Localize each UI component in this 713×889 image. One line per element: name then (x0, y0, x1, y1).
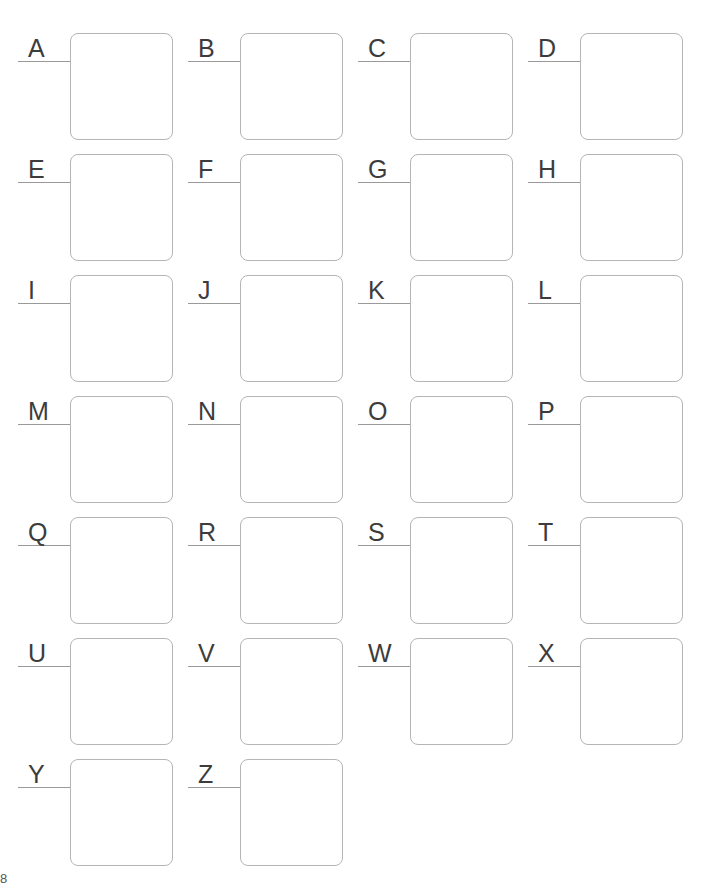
entry-box-v[interactable] (240, 638, 343, 745)
entry-cell-k: K (340, 274, 510, 395)
entry-cell-v: V (170, 637, 340, 758)
entry-cell-a: A (0, 32, 170, 153)
entry-box-c[interactable] (410, 33, 513, 140)
entry-box-e[interactable] (70, 154, 173, 261)
letter-label-u: U (28, 638, 68, 668)
entry-cell-g: G (340, 153, 510, 274)
letter-label-d: D (538, 33, 578, 63)
entry-box-t[interactable] (580, 517, 683, 624)
letter-label-q: Q (28, 517, 68, 547)
letter-label-z: Z (198, 759, 238, 789)
letter-label-p: P (538, 396, 578, 426)
entry-box-x[interactable] (580, 638, 683, 745)
entry-box-h[interactable] (580, 154, 683, 261)
letter-label-s: S (368, 517, 408, 547)
entry-cell-t: T (510, 516, 680, 637)
entry-cell-i: I (0, 274, 170, 395)
entry-cell-r: R (170, 516, 340, 637)
entry-cell-h: H (510, 153, 680, 274)
letter-label-v: V (198, 638, 238, 668)
letter-label-j: J (198, 275, 238, 305)
entry-cell-u: U (0, 637, 170, 758)
letter-label-c: C (368, 33, 408, 63)
entry-box-w[interactable] (410, 638, 513, 745)
entry-box-k[interactable] (410, 275, 513, 382)
entry-box-u[interactable] (70, 638, 173, 745)
letter-label-o: O (368, 396, 408, 426)
letter-label-w: W (368, 638, 408, 668)
entry-cell-n: N (170, 395, 340, 516)
entry-cell-s: S (340, 516, 510, 637)
entry-cell-d: D (510, 32, 680, 153)
entry-cell-x: X (510, 637, 680, 758)
entry-box-p[interactable] (580, 396, 683, 503)
entry-cell-q: Q (0, 516, 170, 637)
entry-cell-e: E (0, 153, 170, 274)
entry-box-y[interactable] (70, 759, 173, 866)
letter-label-t: T (538, 517, 578, 547)
entry-box-a[interactable] (70, 33, 173, 140)
entry-box-q[interactable] (70, 517, 173, 624)
entry-box-d[interactable] (580, 33, 683, 140)
entry-box-j[interactable] (240, 275, 343, 382)
entry-box-m[interactable] (70, 396, 173, 503)
letter-label-e: E (28, 154, 68, 184)
entry-box-s[interactable] (410, 517, 513, 624)
entry-cell-b: B (170, 32, 340, 153)
page-corner-mark: 8 (0, 872, 7, 885)
letter-label-f: F (198, 154, 238, 184)
entry-box-r[interactable] (240, 517, 343, 624)
entry-cell-y: Y (0, 758, 170, 879)
entry-cell-w: W (340, 637, 510, 758)
letter-label-m: M (28, 396, 68, 426)
entry-box-i[interactable] (70, 275, 173, 382)
letter-label-l: L (538, 275, 578, 305)
entry-box-n[interactable] (240, 396, 343, 503)
entry-box-f[interactable] (240, 154, 343, 261)
entry-cell-j: J (170, 274, 340, 395)
alphabet-entry-grid: ABCDEFGHIJKLMNOPQRSTUVWXYZ (0, 0, 713, 889)
letter-label-i: I (28, 275, 68, 305)
letter-label-n: N (198, 396, 238, 426)
letter-label-x: X (538, 638, 578, 668)
entry-cell-p: P (510, 395, 680, 516)
letter-label-k: K (368, 275, 408, 305)
letter-label-h: H (538, 154, 578, 184)
entry-cell-c: C (340, 32, 510, 153)
entry-box-z[interactable] (240, 759, 343, 866)
letter-label-y: Y (28, 759, 68, 789)
entry-box-o[interactable] (410, 396, 513, 503)
entry-cell-l: L (510, 274, 680, 395)
entry-box-l[interactable] (580, 275, 683, 382)
entry-box-b[interactable] (240, 33, 343, 140)
entry-cell-m: M (0, 395, 170, 516)
letter-label-r: R (198, 517, 238, 547)
entry-cell-z: Z (170, 758, 340, 879)
entry-box-g[interactable] (410, 154, 513, 261)
entry-cell-o: O (340, 395, 510, 516)
letter-label-a: A (28, 33, 68, 63)
letter-label-g: G (368, 154, 408, 184)
worksheet-page: ABCDEFGHIJKLMNOPQRSTUVWXYZ 8 (0, 0, 713, 889)
letter-label-b: B (198, 33, 238, 63)
entry-cell-f: F (170, 153, 340, 274)
